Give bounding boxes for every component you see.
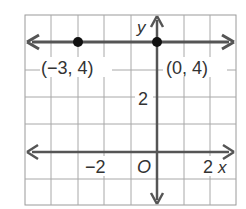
point-label-b: (0, 4) <box>166 58 208 78</box>
y-axis-label: y <box>136 18 147 37</box>
point-neg3-4 <box>73 37 83 47</box>
x-tick-2: 2 <box>203 157 213 177</box>
x-axis-label: x <box>217 158 227 177</box>
x-tick-neg2: −2 <box>85 157 106 177</box>
point-label-a: (−3, 4) <box>41 58 94 78</box>
coordinate-plane: y (−3, 4) (0, 4) 2 −2 O 2 x <box>0 0 246 209</box>
y-tick-2: 2 <box>138 89 148 109</box>
point-0-4 <box>152 37 162 47</box>
origin-label: O <box>137 157 151 177</box>
